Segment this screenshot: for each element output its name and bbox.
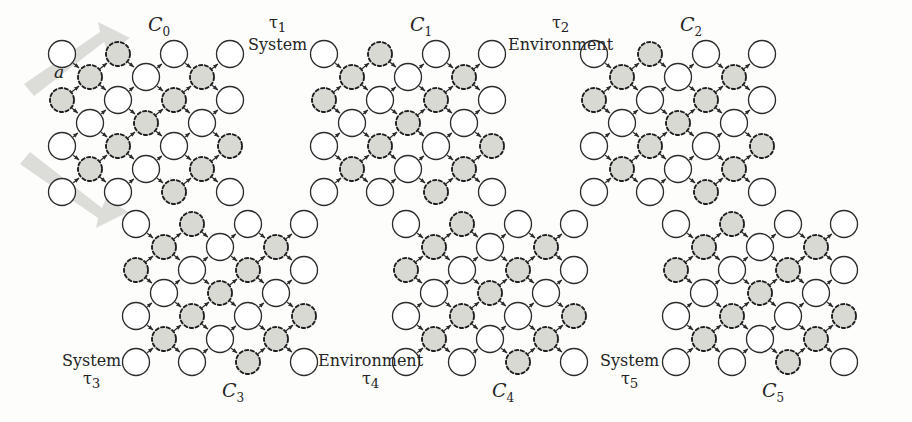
lattice-node-plain [49,179,76,206]
lattice-edge [473,257,478,261]
lattice-edge [826,347,832,352]
lattice-node-shaded [534,327,558,351]
lattice-node-plain [477,234,504,261]
lattice-node-shaded [78,157,102,181]
lattice-node-plain [421,280,448,307]
lattice-node-shaded [106,42,130,66]
lattice-node-shaded [506,350,530,374]
lattice-edge [146,278,152,283]
lattice-node-shaded [832,304,856,328]
lattice-edge [174,233,181,239]
lattice-node-plain [395,64,422,91]
lattice-node-plain [749,87,776,114]
lattice-edge [557,302,563,307]
lattice-node-plain [561,211,588,238]
caption-index: 1 [425,25,433,39]
lattice-edge [717,133,722,137]
lattice-node-shaded [368,42,392,66]
lattice-edge [259,233,265,238]
lattice-node-plain [693,41,720,68]
lattice-node-plain [339,110,366,137]
lattice-node-shaded [720,304,744,328]
lattice-node-shaded [692,235,716,259]
lattice-edge [287,302,293,307]
lattice-node-shaded [750,134,774,158]
lattice-edge [417,303,422,307]
lattice-edge [605,63,611,68]
lattice-edge [213,110,218,114]
lattice-edge [799,303,804,307]
lattice-node-plain [637,87,664,114]
lattice-edge [212,155,219,161]
lattice-node-shaded [638,42,662,66]
lattice-node-plain [123,211,150,238]
lattice-node-plain [747,234,774,261]
lattice-node-shaded [478,281,502,305]
lattice-edge [529,233,535,238]
step-label-tau3: Systemτ3 [62,352,121,392]
lattice-node-plain [479,41,506,68]
lattice-c5 [654,202,866,384]
lattice-edge [390,62,396,67]
lattice-edge [363,132,369,137]
tau-symbol: τ2 [508,14,613,36]
lattice-edge [73,178,79,183]
caption-index: 5 [777,391,785,405]
lattice-edge [100,155,107,161]
lattice-edge [100,177,106,182]
lattice-edge [500,279,507,285]
node-group [311,41,506,206]
lattice-edge [185,155,191,160]
lattice-node-shaded [208,281,232,305]
lattice-node-plain [831,211,858,238]
lattice-edge [661,109,667,114]
lattice-edge [445,280,450,284]
lattice-node-plain [207,326,234,353]
lattice-edge [556,325,563,331]
lattice-edge [529,325,535,330]
lattice-edge [184,86,191,92]
step-label-tau4: Environmentτ4 [318,352,423,392]
caption-letter: C [222,379,237,401]
lattice-edge [416,278,422,283]
lattice-edge [129,87,134,91]
lattice-edge [202,324,208,329]
lattice-node-shaded [804,235,828,259]
lattice-edge [798,278,804,283]
caption-letter: C [410,13,425,35]
lattice-node-plain [775,303,802,330]
lattice-edge [231,326,236,330]
lattice-edge [212,64,218,69]
step-label-tau5: Systemτ5 [600,352,659,392]
lattice-edge [128,132,135,138]
lattice-edge [501,348,507,353]
lattice-edge [416,256,423,262]
lattice-edge [363,110,368,114]
lattice-node-shaded [776,350,800,374]
lattice-edge [473,349,478,353]
lattice-edge [686,256,693,262]
lattice-edge [529,303,534,307]
lattice-edge [231,348,237,353]
lattice-edge [686,278,692,283]
lattice-edge [745,110,750,114]
lattice-node-plain [49,133,76,160]
lattice-node-plain [189,110,216,137]
lattice-node-shaded [452,157,476,181]
lattice-edge [128,154,134,159]
lattice-edge [157,64,162,68]
lattice-edge [335,63,341,68]
lattice-edge [156,131,162,136]
lattice-edge [744,155,751,161]
lattice-edge [799,325,805,330]
lattice-edge [826,325,833,331]
lattice-edge [418,131,424,136]
lattice-edge [633,132,639,137]
lattice-node-plain [123,303,150,330]
caption-index: 2 [695,25,703,39]
lattice-node-shaded [610,65,634,89]
lattice-graph [114,202,326,384]
lattice-node-plain [665,156,692,183]
lattice-node-plain [393,303,420,330]
lattice-node-shaded [692,327,716,351]
